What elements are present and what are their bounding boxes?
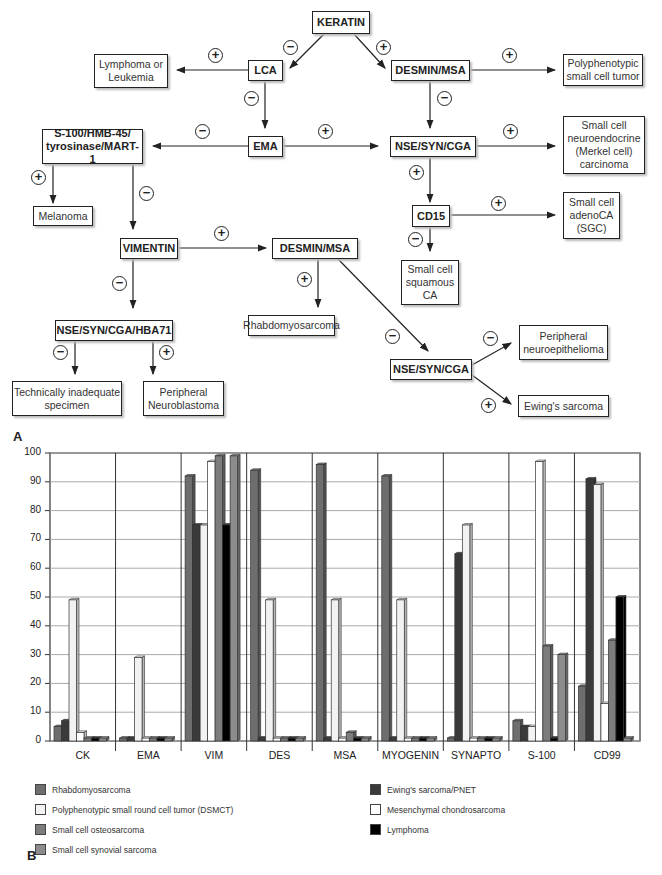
bar-chart-plot: [0, 440, 662, 770]
y-tick-label: 40: [17, 619, 41, 630]
plus-sign-icon: +: [31, 170, 46, 185]
legend-swatch-icon: [370, 784, 381, 795]
minus-sign-icon: −: [483, 331, 498, 346]
bar: [135, 656, 145, 741]
bar: [331, 598, 341, 741]
bar-chart: [0, 440, 662, 770]
legend-label: Small cell osteosarcoma: [52, 825, 144, 835]
legend-label: Polyphenotypic small round cell tumor (D…: [52, 805, 233, 815]
bar: [492, 737, 502, 741]
bar: [230, 454, 240, 741]
node-melanoma: Melanoma: [33, 206, 93, 226]
legend-swatch-icon: [370, 824, 381, 835]
node-nse-syn-cga-top: NSE/SYN/CGA: [390, 136, 476, 157]
legend-swatch-icon: [35, 784, 46, 795]
bar: [593, 483, 603, 741]
bar: [266, 598, 276, 741]
node-vimentin: VIMENTIN: [120, 238, 178, 259]
node-ema: EMA: [248, 136, 283, 157]
legend-swatch-icon: [370, 804, 381, 815]
legend-item: Ewing's sarcoma/PNET: [370, 784, 476, 795]
legend-item: Polyphenotypic small round cell tumor (D…: [35, 804, 233, 815]
node-neuroepithelioma: Peripheral neuroepithelioma: [519, 325, 608, 360]
legend-item: Mesenchymal chondrosarcoma: [370, 804, 505, 815]
plus-sign-icon: +: [297, 272, 312, 287]
plus-sign-icon: +: [208, 48, 223, 63]
legend-item: Lymphoma: [370, 824, 429, 835]
plus-sign-icon: +: [503, 124, 518, 139]
node-neuroblastoma: Peripheral Neuroblastoma: [143, 381, 224, 416]
legend-item: Small cell synovial sarcoma: [35, 844, 156, 855]
legend-item: Small cell osteosarcoma: [35, 824, 144, 835]
y-tick-label: 20: [17, 676, 41, 687]
minus-sign-icon: −: [283, 40, 298, 55]
node-nse-syn-cga-bottom: NSE/SYN/CGA: [390, 359, 472, 380]
x-tick-label: CD99: [567, 749, 647, 761]
node-squamous: Small cell squamous CA: [401, 260, 459, 305]
legend-label: Lymphoma: [387, 825, 429, 835]
plus-sign-icon: +: [409, 165, 424, 180]
bar: [623, 737, 633, 741]
y-tick-label: 50: [17, 590, 41, 601]
bar: [558, 653, 568, 741]
legend-swatch-icon: [35, 824, 46, 835]
bar: [99, 737, 109, 741]
bar: [427, 737, 437, 741]
node-cd15: CD15: [412, 205, 450, 227]
y-tick-label: 0: [17, 734, 41, 745]
minus-sign-icon: −: [112, 276, 127, 291]
minus-sign-icon: −: [408, 232, 423, 247]
node-adenoca: Small cell adenoCA (SGC): [563, 192, 620, 239]
bar: [616, 596, 626, 742]
minus-sign-icon: −: [53, 345, 68, 360]
minus-sign-icon: −: [195, 124, 210, 139]
legend-label: Small cell synovial sarcoma: [52, 845, 156, 855]
bar: [543, 644, 553, 741]
bar: [296, 737, 306, 741]
node-desmin-msa-mid: DESMIN/MSA: [272, 238, 358, 259]
node-ewing-sarcoma: Ewing's sarcoma: [518, 395, 609, 417]
y-tick-label: 60: [17, 561, 41, 572]
bar: [397, 598, 407, 741]
y-tick-label: 30: [17, 648, 41, 659]
bar: [382, 475, 392, 741]
bar: [69, 598, 79, 741]
plus-sign-icon: +: [159, 345, 174, 360]
panel-label-b: B: [27, 848, 36, 863]
y-tick-label: 10: [17, 705, 41, 716]
minus-sign-icon: −: [139, 186, 154, 201]
plus-sign-icon: +: [214, 226, 229, 241]
node-nse-hba71: NSE/SYN/CGA/HBA71: [55, 320, 173, 341]
y-tick-label: 90: [17, 475, 41, 486]
node-lca: LCA: [248, 60, 283, 81]
legend-label: Ewing's sarcoma/PNET: [387, 785, 476, 795]
bar: [361, 737, 371, 741]
legend-label: Rhabdomyosarcoma: [52, 785, 130, 795]
bar: [251, 469, 261, 741]
plus-sign-icon: +: [318, 124, 333, 139]
minus-sign-icon: −: [385, 329, 400, 344]
minus-sign-icon: −: [437, 91, 452, 106]
plus-sign-icon: +: [376, 40, 391, 55]
node-s100-group: S-100/HMB-45/ tyrosinase/MART-1: [42, 129, 143, 164]
plus-sign-icon: +: [502, 48, 517, 63]
bar: [462, 524, 472, 742]
legend-swatch-icon: [35, 804, 46, 815]
plus-sign-icon: +: [481, 398, 496, 413]
node-lymphoma-leukemia: Lymphoma or Leukemia: [94, 54, 168, 88]
bar: [165, 737, 175, 741]
y-tick-label: 70: [17, 532, 41, 543]
bar: [316, 463, 326, 741]
node-polyphenotypic: Polyphenotypic small cell tumor: [563, 54, 643, 86]
node-rhabdomyosarcoma: Rhabdomyosarcoma: [248, 315, 335, 336]
node-merkel: Small cell neuroendocrine (Merkel cell) …: [563, 116, 645, 174]
legend-label: Mesenchymal chondrosarcoma: [387, 805, 505, 815]
legend-item: Rhabdomyosarcoma: [35, 784, 130, 795]
node-inadequate-specimen: Technically inadequate specimen: [12, 381, 122, 416]
node-desmin-msa-top: DESMIN/MSA: [391, 60, 470, 81]
y-tick-label: 100: [17, 446, 41, 457]
y-tick-label: 80: [17, 504, 41, 515]
plus-sign-icon: +: [491, 196, 506, 211]
minus-sign-icon: −: [244, 91, 259, 106]
node-keratin: KERATIN: [312, 11, 370, 34]
